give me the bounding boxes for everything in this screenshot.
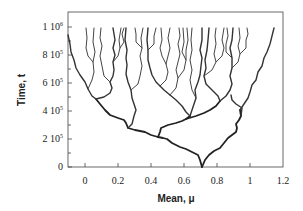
y-tick-label: 4 105 [43, 105, 64, 116]
x-tick-label: 1.2 [277, 175, 290, 186]
x-axis [85, 163, 250, 167]
x-axis-label: Mean, μ [157, 193, 194, 204]
x-tick-label: 1 [248, 175, 253, 186]
x-tick-label: 0.6 [178, 175, 191, 186]
y-tick-label: 8 105 [43, 49, 64, 60]
branching-tree [68, 28, 274, 167]
y-axis-label: Time, t [16, 73, 27, 106]
y-tick-label: 1 106 [43, 21, 64, 32]
chart: 0 2 105 4 105 6 105 8 105 1 106 Time, t … [0, 0, 303, 211]
x-tick-label: 0.2 [112, 175, 125, 186]
y-tick-label: 0 [58, 161, 63, 172]
y-tick-label: 6 105 [43, 77, 64, 88]
y-tick-label: 2 105 [43, 133, 64, 144]
x-tick-label: 0.8 [211, 175, 224, 186]
x-tick-label: 0.4 [145, 175, 158, 186]
x-tick-labels: 0 0.2 0.4 0.6 0.8 1 1.2 [83, 175, 290, 186]
y-tick-labels: 0 2 105 4 105 6 105 8 105 1 106 [43, 21, 64, 172]
x-tick-label: 0 [83, 175, 88, 186]
